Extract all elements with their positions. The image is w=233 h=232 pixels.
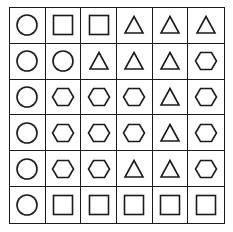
hexagon-icon bbox=[88, 86, 110, 108]
grid-cell bbox=[153, 187, 189, 223]
grid-cell bbox=[81, 80, 117, 116]
grid-cell bbox=[117, 80, 153, 116]
grid-cell bbox=[81, 44, 117, 80]
square-icon bbox=[88, 14, 110, 36]
hexagon-icon bbox=[123, 122, 145, 144]
grid-cell bbox=[153, 80, 189, 116]
hexagon-icon bbox=[195, 158, 217, 180]
hexagon-icon bbox=[88, 122, 110, 144]
grid-cell bbox=[117, 44, 153, 80]
grid-cell bbox=[188, 151, 224, 187]
grid-cell bbox=[10, 44, 46, 80]
grid-cell bbox=[188, 8, 224, 44]
circle-icon bbox=[52, 50, 74, 72]
grid-cell bbox=[153, 115, 189, 151]
hexagon-icon bbox=[88, 158, 110, 180]
hexagon-icon bbox=[195, 122, 217, 144]
triangle-icon bbox=[123, 158, 145, 180]
grid-cell bbox=[46, 80, 82, 116]
grid-cell bbox=[188, 115, 224, 151]
triangle-icon bbox=[159, 158, 181, 180]
grid-cell bbox=[153, 44, 189, 80]
hexagon-icon bbox=[52, 86, 74, 108]
grid-cell bbox=[46, 44, 82, 80]
grid-cell bbox=[46, 151, 82, 187]
circle-icon bbox=[16, 50, 38, 72]
triangle-icon bbox=[123, 50, 145, 72]
grid-cell bbox=[188, 80, 224, 116]
grid-cell bbox=[117, 151, 153, 187]
grid-cell bbox=[81, 8, 117, 44]
grid-cell bbox=[117, 8, 153, 44]
grid-cell bbox=[153, 151, 189, 187]
triangle-icon bbox=[159, 86, 181, 108]
grid-cell bbox=[81, 115, 117, 151]
grid-cell bbox=[10, 115, 46, 151]
grid-cell bbox=[10, 80, 46, 116]
circle-icon bbox=[16, 14, 38, 36]
hexagon-icon bbox=[123, 86, 145, 108]
square-icon bbox=[88, 194, 110, 216]
grid-cell bbox=[81, 151, 117, 187]
grid-cell bbox=[81, 187, 117, 223]
grid-cell bbox=[10, 187, 46, 223]
hexagon-icon bbox=[52, 158, 74, 180]
grid-cell bbox=[117, 115, 153, 151]
triangle-icon bbox=[159, 122, 181, 144]
triangle-icon bbox=[195, 14, 217, 36]
hexagon-icon bbox=[52, 122, 74, 144]
square-icon bbox=[52, 14, 74, 36]
square-icon bbox=[159, 194, 181, 216]
circle-icon bbox=[16, 122, 38, 144]
grid-cell bbox=[153, 8, 189, 44]
triangle-icon bbox=[88, 50, 110, 72]
grid-cell bbox=[117, 187, 153, 223]
shape-grid bbox=[9, 7, 225, 224]
square-icon bbox=[123, 194, 145, 216]
square-icon bbox=[195, 194, 217, 216]
square-icon bbox=[52, 194, 74, 216]
grid-cell bbox=[46, 187, 82, 223]
triangle-icon bbox=[159, 50, 181, 72]
circle-icon bbox=[16, 158, 38, 180]
grid-cell bbox=[46, 115, 82, 151]
grid-cell bbox=[10, 151, 46, 187]
grid-cell bbox=[188, 44, 224, 80]
hexagon-icon bbox=[195, 86, 217, 108]
triangle-icon bbox=[159, 14, 181, 36]
circle-icon bbox=[16, 194, 38, 216]
grid-cell bbox=[10, 8, 46, 44]
triangle-icon bbox=[123, 14, 145, 36]
grid-cell bbox=[188, 187, 224, 223]
circle-icon bbox=[16, 86, 38, 108]
grid-cell bbox=[46, 8, 82, 44]
hexagon-icon bbox=[195, 50, 217, 72]
